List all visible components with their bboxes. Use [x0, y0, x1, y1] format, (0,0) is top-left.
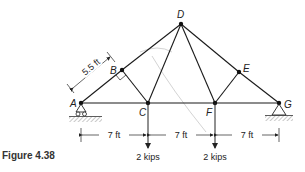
- construction-arcs: [140, 48, 206, 132]
- figure-caption: Figure 4.38: [2, 150, 55, 161]
- dimension-spans: 7 ft 7 ft 7 ft: [81, 128, 279, 142]
- truss-diagram: A B C D E F G 5.5 ft 7 ft 7 ft 7 ft: [0, 0, 305, 172]
- label-a: A: [69, 98, 77, 109]
- member-eg: [239, 72, 279, 103]
- span-ac-label: 7 ft: [108, 130, 121, 140]
- joint-b: [120, 68, 124, 72]
- joint-d: [179, 22, 183, 26]
- label-f: F: [206, 107, 213, 118]
- member-df: [181, 24, 215, 103]
- label-d: D: [177, 9, 184, 20]
- label-e: E: [243, 63, 250, 74]
- member-cd: [148, 24, 181, 103]
- span-fg-label: 7 ft: [241, 130, 254, 140]
- label-g: G: [284, 99, 292, 110]
- svg-text:2 kips: 2 kips: [136, 152, 160, 162]
- dimension-ab: 5.5 ft: [67, 52, 115, 93]
- member-de: [181, 24, 239, 72]
- right-angle-marker: [116, 75, 126, 80]
- member-ef: [215, 72, 239, 103]
- span-cf-label: 7 ft: [175, 130, 188, 140]
- label-c: C: [139, 107, 147, 118]
- joint-e: [237, 70, 241, 74]
- truss-joints: [79, 22, 281, 105]
- member-bd: [122, 24, 181, 70]
- label-b: B: [110, 65, 117, 76]
- svg-text:2 kips: 2 kips: [203, 152, 227, 162]
